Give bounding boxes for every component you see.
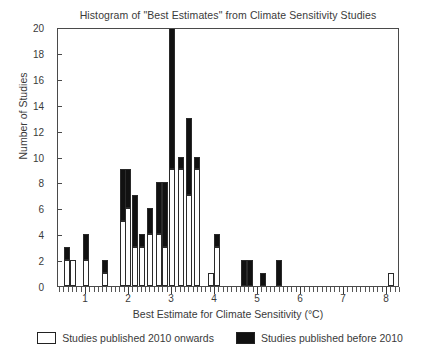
- x-axis-minor-tick: [132, 287, 133, 292]
- x-axis-minor-tick: [309, 287, 310, 292]
- x-axis-minor-tick: [395, 287, 396, 292]
- x-axis-minor-tick: [360, 287, 361, 292]
- bar-segment-old: [186, 118, 192, 196]
- bar-segment-new: [102, 273, 108, 286]
- x-axis-minor-tick: [102, 287, 103, 292]
- bar-segment-old: [260, 273, 266, 286]
- x-axis-minor-tick: [106, 287, 107, 292]
- x-axis-minor-tick: [304, 287, 305, 292]
- x-axis-minor-tick: [352, 287, 353, 292]
- bar-segment-new: [162, 247, 168, 286]
- x-axis-minor-tick: [193, 287, 194, 292]
- x-axis-minor-tick: [244, 287, 245, 292]
- bar-segment-new: [178, 169, 184, 286]
- bar-segment-new: [132, 247, 138, 286]
- x-axis-minor-tick: [253, 287, 254, 292]
- x-axis-minor-tick: [175, 287, 176, 292]
- y-axis-tick-label: 12: [33, 126, 44, 137]
- bars-layer: [58, 29, 398, 286]
- x-axis-minor-tick: [322, 287, 323, 292]
- chart-title: Histogram of "Best Estimates" from Clima…: [57, 9, 399, 21]
- x-axis-minor-tick: [111, 287, 112, 292]
- x-axis-minor-tick: [248, 287, 249, 292]
- y-axis-tick-mark: [57, 158, 62, 159]
- x-axis-minor-tick: [279, 287, 280, 292]
- histogram-bar: [70, 260, 76, 286]
- x-axis-minor-tick: [162, 287, 163, 292]
- x-axis-title: Best Estimate for Climate Sensitivity (°…: [57, 308, 399, 320]
- histogram-figure: Histogram of "Best Estimates" from Clima…: [0, 0, 440, 362]
- bar-segment-new: [169, 169, 175, 286]
- x-axis-minor-tick: [283, 287, 284, 292]
- x-axis-minor-tick: [330, 287, 331, 292]
- histogram-bar: [139, 234, 145, 286]
- x-axis-minor-tick: [287, 287, 288, 292]
- x-axis-minor-tick: [227, 287, 228, 292]
- x-axis-minor-tick: [137, 287, 138, 292]
- x-axis-minor-tick: [369, 287, 370, 292]
- x-axis-minor-tick: [201, 287, 202, 292]
- x-axis-minor-tick: [240, 287, 241, 292]
- x-axis-minor-tick: [218, 287, 219, 292]
- y-axis-tick-mark: [57, 80, 62, 81]
- y-axis-tick-label: 4: [38, 230, 44, 241]
- x-axis-minor-tick: [274, 287, 275, 292]
- x-axis-minor-tick: [356, 287, 357, 292]
- x-axis-minor-tick: [98, 287, 99, 292]
- histogram-bar: [64, 247, 70, 286]
- histogram-bar: [214, 234, 220, 286]
- x-axis-minor-tick: [158, 287, 159, 292]
- bar-segment-old: [147, 208, 153, 234]
- x-axis-minor-tick: [334, 287, 335, 292]
- legend-entry: Studies published 2010 onwards: [37, 332, 214, 344]
- x-axis-minor-tick: [236, 287, 237, 292]
- x-axis-minor-tick: [373, 287, 374, 292]
- x-axis-minor-tick: [205, 287, 206, 292]
- x-axis-minor-tick: [154, 287, 155, 292]
- x-axis-minor-tick: [326, 287, 327, 292]
- bar-segment-old: [247, 260, 253, 286]
- x-axis-minor-tick: [377, 287, 378, 292]
- x-axis-minor-tick: [231, 287, 232, 292]
- bar-segment-old: [125, 169, 131, 208]
- x-axis-minor-tick: [63, 287, 64, 292]
- histogram-bar: [208, 273, 214, 286]
- x-axis-minor-tick: [261, 287, 262, 292]
- x-axis-minor-tick: [399, 287, 400, 292]
- x-axis-tick-label: 6: [297, 293, 303, 304]
- x-axis-tick-label: 1: [82, 293, 88, 304]
- x-axis-minor-tick: [390, 287, 391, 292]
- bar-segment-old: [178, 157, 184, 170]
- legend-entry: Studies published before 2010: [236, 332, 403, 344]
- x-axis-minor-tick: [188, 287, 189, 292]
- histogram-bar: [125, 169, 131, 286]
- y-axis-tick-mark: [57, 54, 62, 55]
- bar-segment-new: [147, 234, 153, 286]
- x-axis-minor-tick: [313, 287, 314, 292]
- bar-segment-new: [64, 260, 70, 286]
- x-axis-minor-tick: [339, 287, 340, 292]
- x-axis-minor-tick: [89, 287, 90, 292]
- bar-segment-new: [208, 273, 214, 286]
- x-axis-minor-tick: [365, 287, 366, 292]
- bar-segment-old: [162, 182, 168, 247]
- x-axis-minor-tick: [266, 287, 267, 292]
- x-axis-minor-tick: [145, 287, 146, 292]
- bar-segment-new: [139, 247, 145, 286]
- x-axis-minor-tick: [68, 287, 69, 292]
- histogram-bar: [194, 157, 200, 287]
- bar-segment-new: [70, 260, 76, 286]
- bar-segment-old: [132, 195, 138, 247]
- bar-segment-old: [214, 234, 220, 247]
- x-axis-minor-tick: [115, 287, 116, 292]
- legend-swatch-new: [37, 332, 56, 344]
- y-axis-tick-label: 6: [38, 204, 44, 215]
- legend-label: Studies published 2010 onwards: [62, 332, 214, 344]
- y-axis-tick-labels: 02468101214161820: [0, 28, 52, 287]
- x-axis-minor-tick: [291, 287, 292, 292]
- x-axis-minor-tick: [180, 287, 181, 292]
- histogram-bar: [169, 28, 175, 286]
- y-axis-tick-mark: [57, 209, 62, 210]
- legend-swatch-old: [236, 332, 255, 344]
- bar-segment-new: [214, 247, 220, 286]
